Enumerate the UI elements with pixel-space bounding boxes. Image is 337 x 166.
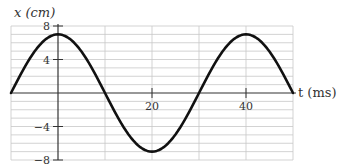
x-axis-label: t (ms) bbox=[298, 85, 337, 100]
y-tick-label: 8 bbox=[43, 20, 50, 33]
y-axis-label: x (cm) bbox=[14, 5, 55, 20]
y-tick-label: 4 bbox=[43, 54, 50, 67]
t-tick-label: 20 bbox=[145, 100, 159, 113]
y-tick-label: −8 bbox=[34, 154, 50, 166]
axes bbox=[11, 24, 296, 160]
y-tick-label: −4 bbox=[34, 121, 50, 134]
sine-wave-chart: 84−4−82040 x (cm) t (ms) bbox=[0, 0, 337, 166]
t-tick-label: 40 bbox=[239, 100, 253, 113]
